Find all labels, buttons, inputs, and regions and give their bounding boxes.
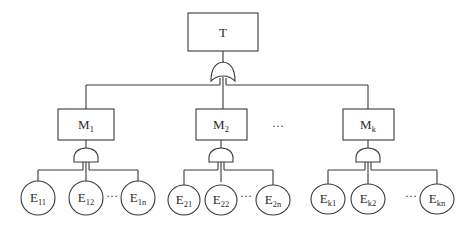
basic-event-e12: E12 [69, 181, 103, 215]
module-mk-label: M [360, 117, 372, 132]
modules-ellipsis: … [272, 116, 284, 130]
basic-event-ek1: Ek1 [311, 184, 345, 214]
basic-event-e21: E21 [168, 185, 200, 215]
and-gate-icon [209, 148, 233, 162]
events-ellipsis: … [405, 186, 417, 200]
top-event-label: T [219, 25, 227, 40]
module-m2-label: M [213, 117, 225, 132]
module-m1-label: M [78, 117, 90, 132]
module-mk: Mk [343, 109, 394, 140]
and-gate-icon [356, 148, 380, 162]
basic-event-ek2: Ek2 [351, 184, 385, 214]
fault-tree-diagram: T M1 E11 E12 … E1n M2 [0, 0, 476, 230]
top-event: T [188, 13, 258, 51]
basic-event-ekn: Ekn [420, 184, 454, 214]
events-ellipsis: … [240, 186, 252, 200]
events-ellipsis: … [106, 186, 118, 200]
basic-event-e1n: E1n [121, 181, 155, 215]
module-m1: M1 [58, 109, 114, 140]
basic-event-e22: E22 [205, 185, 237, 215]
module-m2: M2 [196, 109, 247, 140]
basic-event-e11: E11 [21, 181, 55, 215]
basic-event-e2n: E2n [256, 185, 290, 215]
and-gate-icon [74, 148, 98, 162]
